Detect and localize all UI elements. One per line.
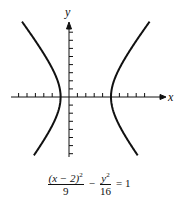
equation-caption: (x − 2)2 9 − y2 16 = 1 [0, 170, 179, 197]
numerator-1: (x − 2) [49, 172, 80, 184]
x-axis-label: x [167, 90, 174, 104]
denominator-1: 9 [63, 185, 69, 197]
left-branch [22, 22, 61, 156]
hyperbola-curves [22, 22, 150, 156]
y-axis-label: y [64, 5, 71, 19]
right-branch [111, 22, 150, 156]
fraction-1: (x − 2)2 9 [48, 170, 84, 197]
denominator-2: 16 [100, 185, 111, 197]
equals-one: = 1 [116, 177, 130, 189]
exponent-2: 2 [106, 171, 110, 179]
exponent-1: 2 [79, 171, 83, 179]
minus-sign: − [89, 177, 95, 189]
axes [11, 22, 166, 157]
hyperbola-plot: x y [0, 0, 179, 165]
fraction-2: y2 16 [100, 170, 111, 197]
